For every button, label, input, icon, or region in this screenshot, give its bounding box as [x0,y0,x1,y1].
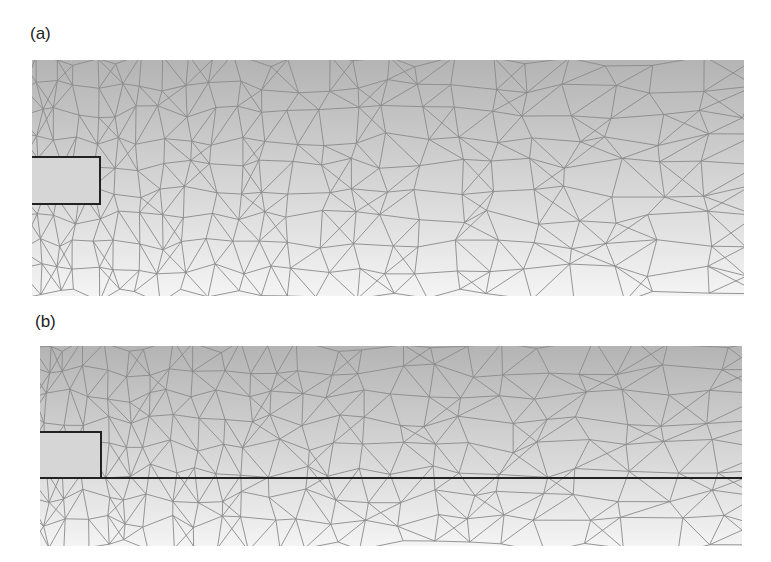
mesh-b-svg [40,346,742,546]
panel-b-label: (b) [35,312,56,332]
panel-a-mesh [32,60,744,296]
panel-b-mesh [40,346,742,546]
panel-a-label: (a) [30,24,51,44]
mesh-a-svg [32,60,744,296]
